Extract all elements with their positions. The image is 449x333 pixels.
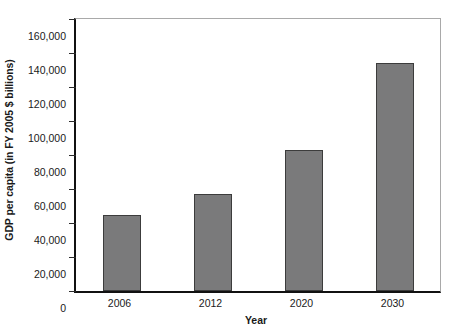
x-axis-title: Year xyxy=(74,313,438,327)
y-axis-tick-label: 0 xyxy=(60,303,66,313)
bar-chart: GDP per capita (in FY 2005 $ billions) 0… xyxy=(0,0,449,333)
x-axis-tick-labels: 2006201220202030 xyxy=(74,296,438,312)
bar xyxy=(285,150,323,291)
y-axis-tick-label: 120,000 xyxy=(28,99,66,109)
x-axis-tick-label: 2006 xyxy=(74,296,165,310)
y-axis-tick-mark xyxy=(69,121,76,122)
bar xyxy=(194,194,232,291)
y-axis-tick-label: 20,000 xyxy=(34,269,66,279)
y-axis-tick-labels: 020,00040,00060,00080,000100,000120,0001… xyxy=(0,18,68,290)
y-axis-tick-mark xyxy=(69,19,76,20)
x-axis-tick-label: 2020 xyxy=(256,296,347,310)
x-axis-tick-label: 2012 xyxy=(165,296,256,310)
y-axis-tick-mark xyxy=(69,189,76,190)
y-axis-tick-label: 100,000 xyxy=(28,133,66,143)
y-axis-tick-mark xyxy=(69,223,76,224)
y-axis-tick-mark xyxy=(69,257,76,258)
y-axis-tick-mark xyxy=(69,87,76,88)
y-axis-tick-mark xyxy=(69,155,76,156)
x-axis-tick-label: 2030 xyxy=(347,296,438,310)
y-axis-tick-label: 160,000 xyxy=(28,31,66,41)
plot-inner xyxy=(76,19,440,291)
bar xyxy=(103,215,141,291)
y-axis-tick-mark xyxy=(69,291,76,292)
plot-area xyxy=(74,18,441,293)
y-axis-tick-mark xyxy=(69,53,76,54)
y-axis-tick-label: 80,000 xyxy=(34,167,66,177)
y-axis-tick-label: 60,000 xyxy=(34,201,66,211)
y-axis-tick-label: 140,000 xyxy=(28,65,66,75)
bar xyxy=(376,63,414,291)
y-axis-tick-label: 40,000 xyxy=(34,235,66,245)
